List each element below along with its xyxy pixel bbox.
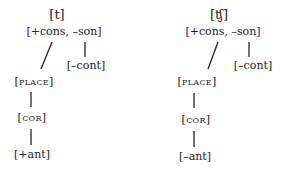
root-node: [+cons, –son] (26, 26, 101, 38)
segment-label: [ʧ] (210, 8, 228, 22)
cor-node: [cor] (18, 112, 47, 124)
place-node: [place] (14, 76, 53, 88)
left-root-to-place-branch (41, 42, 52, 69)
cor-node: [cor] (182, 114, 211, 126)
ant-node: [–ant] (179, 151, 211, 163)
root-node: [+cons, –son] (185, 26, 260, 38)
cont-node: [–cont] (67, 60, 105, 72)
segment-label: [t] (49, 8, 64, 22)
place-node: [place] (177, 76, 216, 88)
cont-node: [–cont] (234, 60, 272, 72)
ant-node: [+ant] (14, 149, 50, 161)
right-root-to-place-branch (208, 42, 218, 69)
